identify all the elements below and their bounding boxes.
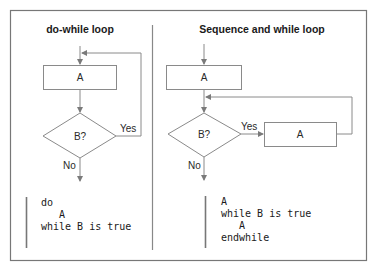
left-code-line-1: do: [41, 197, 53, 208]
right-decision-label: B?: [198, 129, 211, 140]
right-loop-body-label: A: [297, 129, 304, 140]
right-title: Sequence and while loop: [199, 23, 324, 35]
left-process-label: A: [77, 72, 84, 83]
flowchart-diagram: do-while loop A B? Yes No do A while B i…: [0, 0, 378, 274]
right-code-line-2: while B is true: [221, 208, 311, 219]
left-decision-label: B?: [74, 131, 87, 142]
left-panel: do-while loop A B? Yes No do A while B i…: [27, 23, 142, 248]
right-yes-label: Yes: [241, 121, 257, 132]
left-no-label: No: [63, 160, 76, 171]
left-title: do-while loop: [46, 23, 114, 35]
right-code-line-4: endwhile: [221, 232, 269, 243]
right-no-label: No: [188, 160, 201, 171]
left-code-line-2: A: [41, 209, 65, 220]
right-code-line-1: A: [221, 196, 227, 207]
right-code-line-3: A: [221, 220, 245, 231]
left-yes-label: Yes: [120, 123, 136, 134]
left-code-line-3: while B is true: [41, 221, 131, 232]
right-panel: Sequence and while loop A B? Yes A No A …: [167, 23, 353, 248]
right-sequence-label: A: [201, 72, 208, 83]
